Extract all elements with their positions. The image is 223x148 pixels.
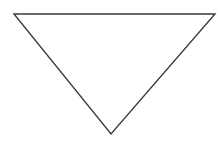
diagram-canvas	[0, 0, 223, 148]
inverted-triangle-shape	[14, 14, 215, 134]
triangle-diagram	[0, 0, 223, 148]
